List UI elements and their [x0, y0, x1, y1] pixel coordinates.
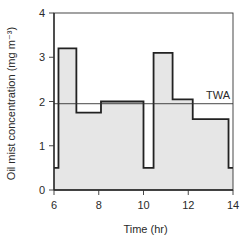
y-axis-label: Oil mist concentration (mg m⁻³) [5, 27, 17, 180]
x-tick-label: 12 [182, 199, 194, 211]
x-axis-label: Time (hr) [123, 223, 167, 235]
twa-label: TWA [206, 89, 231, 101]
y-tick-label: 4 [39, 7, 45, 19]
chart: TWA0123468101214Time (hr)Oil mist concen… [0, 0, 246, 238]
y-tick-label: 3 [39, 51, 45, 63]
y-tick-label: 1 [39, 140, 45, 152]
x-tick-label: 8 [96, 199, 102, 211]
x-tick-label: 6 [51, 199, 57, 211]
x-tick-label: 10 [137, 199, 149, 211]
y-tick-label: 2 [39, 96, 45, 108]
x-tick-label: 14 [227, 199, 239, 211]
y-tick-label: 0 [39, 184, 45, 196]
plot-area: TWA0123468101214Time (hr)Oil mist concen… [5, 7, 239, 235]
